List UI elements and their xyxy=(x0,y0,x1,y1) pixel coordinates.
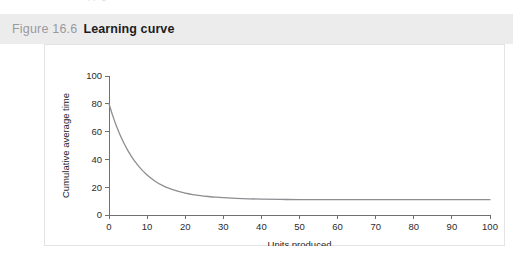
y-tick-label: 40 xyxy=(91,154,102,165)
x-tick-label: 30 xyxy=(218,221,229,232)
x-tick-label: 70 xyxy=(370,221,381,232)
x-tick-label: 90 xyxy=(447,221,458,232)
y-tick-label: 0 xyxy=(97,209,102,220)
learning-curve-line xyxy=(109,104,490,200)
x-tick-label: 50 xyxy=(294,221,305,232)
x-tick-label: 40 xyxy=(256,221,267,232)
x-tick-label: 60 xyxy=(332,221,343,232)
figure-title-label: Learning curve xyxy=(83,22,174,36)
page-top-bleed: pp g xyxy=(0,0,530,10)
x-tick-label: 80 xyxy=(409,221,420,232)
y-tick-label: 80 xyxy=(91,98,102,109)
figure-number-label: Figure 16.6 xyxy=(12,22,77,36)
y-tick-label: 100 xyxy=(86,70,102,81)
x-tick-label: 20 xyxy=(180,221,191,232)
figure-block: Figure 16.6 Learning curve 0102030405060… xyxy=(0,14,513,246)
x-tick-label: 0 xyxy=(106,221,111,232)
x-tick-label: 100 xyxy=(482,221,498,232)
y-tick-label: 20 xyxy=(91,182,102,193)
y-tick-label: 60 xyxy=(91,126,102,137)
bleed-text: pp g xyxy=(88,0,107,1)
learning-curve-chart: 0102030405060708090100020406080100Units … xyxy=(45,45,506,247)
y-axis-title: Cumulative average time xyxy=(60,93,71,198)
figure-caption-bar: Figure 16.6 Learning curve xyxy=(0,14,513,44)
x-tick-label: 10 xyxy=(142,221,153,232)
page-bottom-strip xyxy=(0,246,530,259)
chart-card: 0102030405060708090100020406080100Units … xyxy=(44,44,505,246)
